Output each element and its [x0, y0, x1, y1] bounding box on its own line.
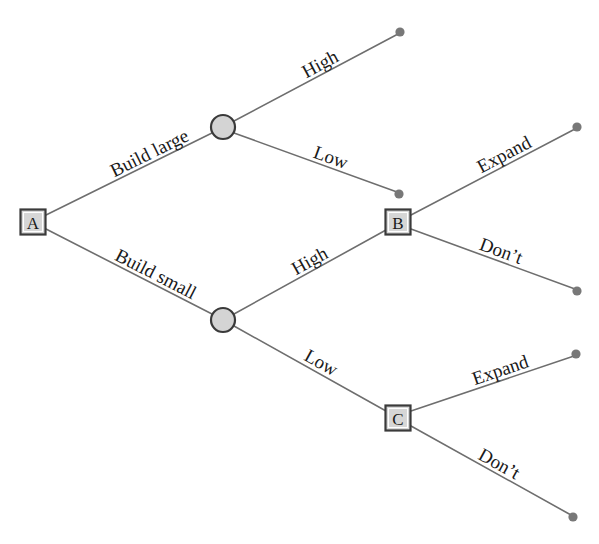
- decision-tree-diagram: Build largeBuild smallHighLowHighLowExpa…: [0, 0, 599, 544]
- terminal-dot-t2: [394, 189, 403, 198]
- node-label-C: C: [392, 410, 403, 427]
- node-label-B: B: [392, 214, 403, 231]
- nodes-group: [21, 115, 411, 431]
- node-label-A: A: [27, 214, 39, 231]
- terminal-dot-t3: [572, 122, 581, 131]
- terminal-dot-t1: [395, 27, 404, 36]
- terminal-dot-t5: [571, 349, 580, 358]
- chance-node-chance-upper[interactable]: [211, 115, 235, 139]
- terminal-dot-t4: [572, 286, 581, 295]
- terminal-dot-t6: [568, 512, 577, 521]
- branch-line-e-b-expand: [411, 129, 575, 215]
- edges-group: [46, 34, 575, 515]
- chance-node-chance-lower[interactable]: [211, 308, 235, 332]
